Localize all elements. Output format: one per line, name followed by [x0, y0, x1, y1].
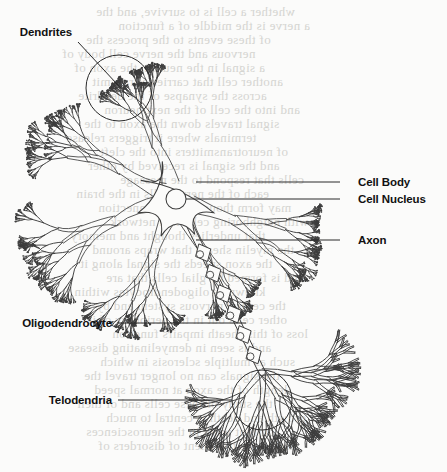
label-axon: Axon [358, 234, 386, 247]
axon-with-myelin [187, 225, 265, 374]
label-cell-body: Cell Body [358, 176, 410, 189]
label-leader-lines [78, 42, 340, 400]
label-cell-nucleus: Cell Nucleus [358, 193, 426, 206]
label-telodendria: Telodendria [49, 394, 112, 407]
label-dendrites: Dendrites [20, 26, 72, 39]
telodendria-terminals [185, 330, 361, 468]
neuron-diagram-page: whether a cell is to survive, and thea n… [0, 0, 447, 472]
label-oligodendrocyte: Oligodendrocyte [22, 317, 112, 330]
